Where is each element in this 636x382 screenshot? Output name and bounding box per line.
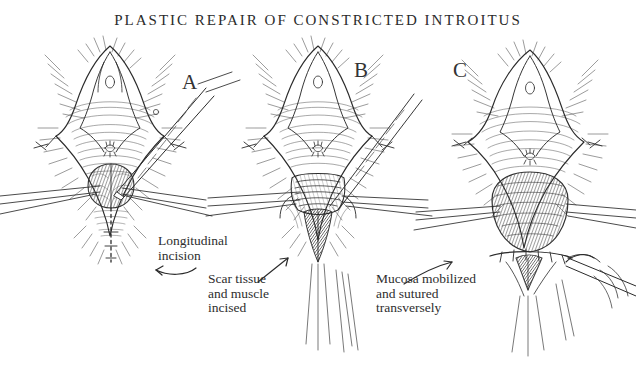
surgical-illustration-artwork bbox=[0, 0, 636, 382]
forceps-right-b bbox=[330, 94, 432, 216]
forceps-left-b bbox=[206, 192, 300, 216]
forceps-right-a bbox=[122, 188, 212, 216]
caption-mucosa-sutured: Mucosa mobilized and sutured transversel… bbox=[376, 272, 476, 316]
stay-suture-right-c bbox=[582, 138, 602, 148]
panel-label-a: A bbox=[182, 70, 197, 95]
caption-scar-tissue-incised: Scar tissue and muscle incised bbox=[208, 272, 269, 316]
stay-suture-left-a bbox=[34, 136, 56, 150]
arrow-longitudinal-incision bbox=[156, 268, 196, 274]
forceps-left-c bbox=[414, 206, 500, 230]
stay-suture-right-b bbox=[372, 136, 394, 150]
panel-label-c: C bbox=[453, 58, 467, 83]
figure-a bbox=[0, 36, 240, 264]
stay-suture-left-b bbox=[242, 136, 264, 150]
illustration-plate: PLASTIC REPAIR OF CONSTRICTED INTROITUS bbox=[0, 0, 636, 382]
panel-label-b: B bbox=[354, 58, 368, 83]
forceps-left-a bbox=[0, 186, 100, 214]
caption-longitudinal-incision: Longitudinal incision bbox=[158, 234, 228, 263]
forceps-right-c bbox=[566, 204, 636, 228]
needle-holder-c bbox=[566, 255, 636, 308]
curved-needle-c bbox=[566, 255, 594, 262]
